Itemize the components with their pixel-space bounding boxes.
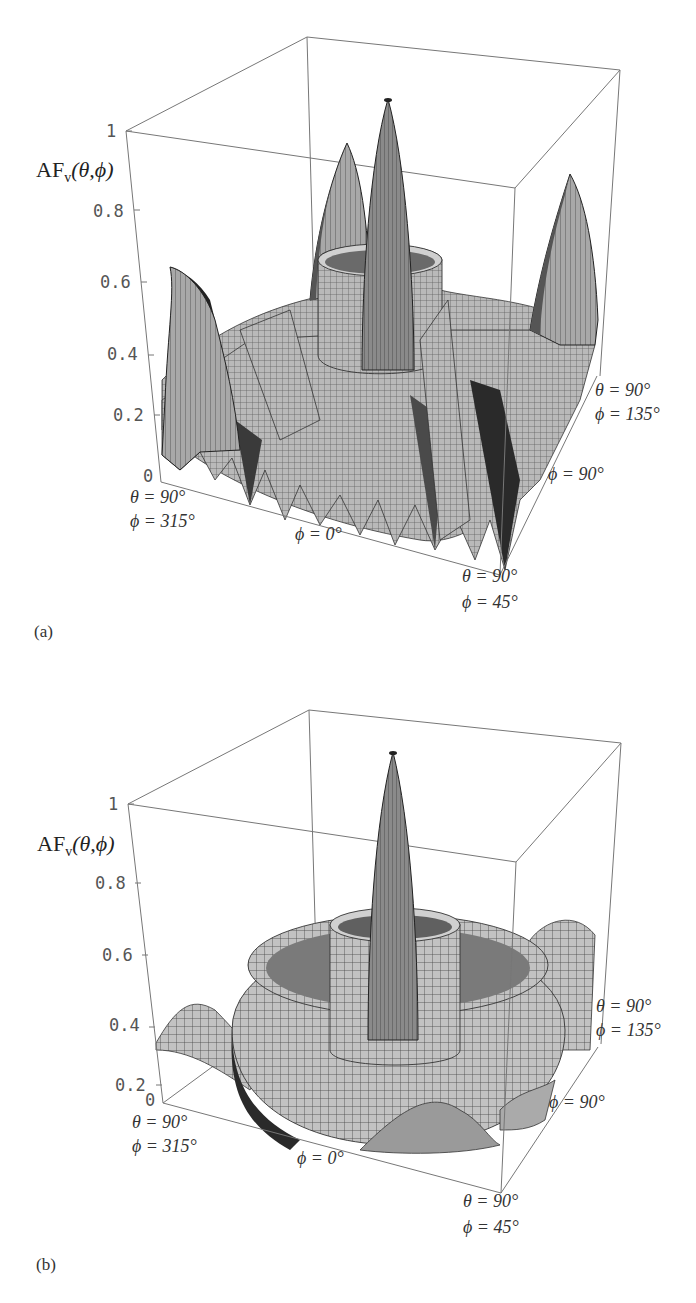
surface-plot-b: 1 0.8 0.6 0.4 0.2 0 AFv(θ,ϕ) θ = 90° ϕ =…: [0, 650, 696, 1303]
corner-label-left-theta: θ = 90°: [130, 487, 185, 507]
z-tick-0.8: 0.8: [95, 873, 126, 893]
edge-label-phi-0: ϕ = 0°: [297, 1148, 344, 1168]
corner-label-right-theta: θ = 90°: [595, 380, 650, 400]
z-axis-ticks: [126, 131, 160, 415]
z-tick-1: 1: [108, 794, 118, 814]
z-axis-label: AFv(θ,ϕ): [37, 831, 114, 859]
corner-label-left-phi: ϕ = 315°: [130, 511, 195, 531]
z-tick-0.2: 0.2: [113, 405, 144, 425]
corner-label-front-phi: ϕ = 45°: [462, 592, 518, 612]
z-tick-0.6: 0.6: [100, 272, 131, 292]
corner-label-front-phi: ϕ = 45°: [463, 1217, 519, 1237]
panel-label-a: (a): [34, 622, 53, 641]
edge-label-phi-90: ϕ = 90°: [548, 464, 604, 484]
surface-b: [156, 751, 595, 1153]
z-tick-0.4: 0.4: [107, 344, 138, 364]
corner-label-front-theta: θ = 90°: [462, 566, 517, 586]
z-tick-0.8: 0.8: [93, 201, 124, 221]
z-axis-label: AFv(θ,ϕ): [36, 157, 113, 185]
edge-label-phi-90: ϕ = 90°: [549, 1092, 605, 1112]
z-tick-1: 1: [106, 121, 116, 141]
z-tick-0: 0: [145, 1090, 155, 1110]
corner-label-right-phi: ϕ = 135°: [596, 1020, 661, 1040]
corner-label-right-phi: ϕ = 135°: [595, 404, 660, 424]
corner-label-left-theta: θ = 90°: [132, 1112, 187, 1132]
corner-label-front-theta: θ = 90°: [463, 1191, 518, 1211]
panel-a-surface-plot: 1 0.8 0.6 0.4 0.2 0 AFv(θ,ϕ) θ = 90° ϕ =…: [0, 0, 696, 650]
z-tick-0.4: 0.4: [109, 1015, 140, 1035]
corner-label-left-phi: ϕ = 315°: [132, 1136, 197, 1156]
surface-plot-a: 1 0.8 0.6 0.4 0.2 0 AFv(θ,ϕ) θ = 90° ϕ =…: [0, 0, 696, 650]
z-tick-0: 0: [143, 466, 153, 486]
z-tick-0.6: 0.6: [102, 945, 133, 965]
corner-label-right-theta: θ = 90°: [596, 996, 651, 1016]
z-tick-0.2: 0.2: [115, 1075, 146, 1095]
edge-label-phi-0: ϕ = 0°: [295, 524, 342, 544]
panel-label-b: (b): [36, 1255, 56, 1274]
panel-b-surface-plot: 1 0.8 0.6 0.4 0.2 0 AFv(θ,ϕ) θ = 90° ϕ =…: [0, 650, 696, 1303]
